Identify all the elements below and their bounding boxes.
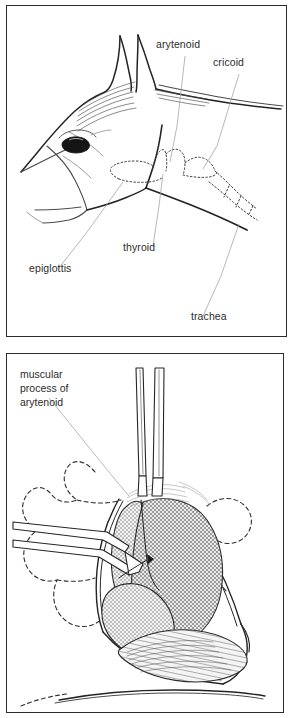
label-cricoid: cricoid [213,56,244,68]
label-arytenoid: arytenoid [156,38,200,50]
label-trachea: trachea [191,310,227,322]
leader-lines [59,56,239,316]
mane-hatching [77,82,209,131]
lateral-head-drawing: arytenoid cricoid thyroid epiglottis tra… [7,6,285,335]
leader-muscular-process [49,398,129,496]
label-line-2: process of [20,382,69,394]
lower-neck-contour [21,690,265,706]
figure-page: arytenoid cricoid thyroid epiglottis tra… [0,0,294,718]
larynx-cartilage-dotted-outline [110,149,257,220]
label-line-1: muscular [20,368,63,380]
leader-trachea [203,224,239,316]
panel-lateral-head-anatomy: arytenoid cricoid thyroid epiglottis tra… [6,5,287,337]
leader-epiglottis [59,182,123,268]
retractor-instrument-top [136,368,164,496]
leader-thyroid [153,174,163,246]
label-thyroid: thyroid [123,241,155,253]
surgical-exposure-drawing: muscular process of arytenoid [7,354,282,711]
horse-eye [59,130,111,153]
leader-arytenoid [170,56,185,162]
label-epiglottis: epiglottis [29,262,71,274]
label-line-3: arytenoid [20,396,63,408]
label-muscular-process-of-arytenoid: muscular process of arytenoid [20,368,71,408]
leader-cricoid [203,74,239,169]
panel-surgical-exposure: muscular process of arytenoid [6,353,284,713]
